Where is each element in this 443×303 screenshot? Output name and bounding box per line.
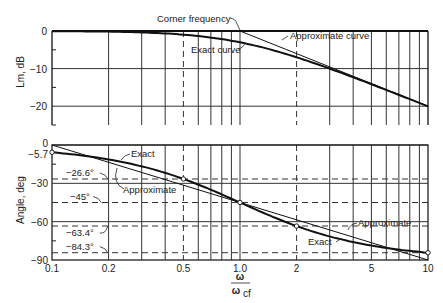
angle-y-tick-label: −60 bbox=[31, 217, 48, 228]
annotation-exact-bottom: Exact bbox=[308, 236, 332, 247]
reference-line-label: −63.4° bbox=[66, 227, 94, 238]
magnitude-y-tick-label: −20 bbox=[30, 101, 47, 112]
annotation-exact-curve: Exact curve bbox=[191, 44, 241, 55]
annotation-corner-frequency: Corner frequency bbox=[157, 13, 231, 24]
magnitude-y-axis-label: Lm, dB bbox=[15, 56, 26, 88]
x-tick-label: 0.5 bbox=[176, 263, 190, 274]
leader-corner-frequency bbox=[230, 18, 240, 30]
x-tick-label: 10 bbox=[422, 263, 434, 274]
x-axis-label-subscript: cf bbox=[243, 288, 251, 299]
x-tick-label: 0.2 bbox=[102, 263, 116, 274]
reference-label-leader bbox=[100, 226, 108, 233]
angle-y-tick-label: −5.7 bbox=[28, 149, 48, 160]
bode-plot: −26.6°−45°−63.4°−84.3°0−10−200−5.7−30−60… bbox=[0, 0, 443, 303]
x-tick-label: 0.1 bbox=[45, 263, 59, 274]
reference-label-leader bbox=[93, 197, 101, 203]
reference-label-leader bbox=[100, 173, 108, 179]
x-tick-label: 5 bbox=[369, 263, 375, 274]
leader-approximate-curve bbox=[282, 36, 288, 40]
reference-line-label: −84.3° bbox=[66, 241, 94, 252]
reference-label-leader bbox=[100, 247, 108, 253]
magnitude-y-tick-label: −10 bbox=[30, 64, 47, 75]
angle-y-tick-label: −30 bbox=[31, 178, 48, 189]
marked-point bbox=[238, 200, 242, 204]
marked-point bbox=[426, 251, 430, 255]
reference-line-label: −45° bbox=[70, 191, 90, 202]
angle-y-tick-label: 0 bbox=[42, 138, 48, 149]
annotation-exact-top: Exact bbox=[131, 148, 155, 159]
x-axis-label-denominator: ω bbox=[232, 285, 241, 296]
leader-exact-top bbox=[121, 154, 130, 160]
reference-line-label: −26.6° bbox=[66, 167, 94, 178]
magnitude-y-tick-label: 0 bbox=[41, 26, 47, 37]
annotation-approximate-curve: Approximate curve bbox=[290, 30, 369, 41]
annotation-approximate-bottom: Approximate bbox=[358, 217, 411, 228]
marked-point bbox=[50, 150, 54, 154]
marked-point bbox=[181, 177, 185, 181]
marked-point bbox=[294, 224, 298, 228]
x-axis-label-numerator: ω bbox=[236, 271, 245, 282]
x-tick-label: 2 bbox=[294, 263, 300, 274]
angle-y-axis-label: Angle, deg bbox=[15, 176, 26, 224]
annotation-approximate-top: Approximate bbox=[123, 184, 176, 195]
x-axis-label: ω ω cf bbox=[231, 271, 251, 299]
